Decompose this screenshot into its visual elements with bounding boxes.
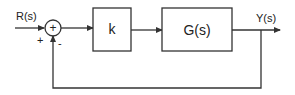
sum-symbol: + xyxy=(49,21,56,35)
plant-block: G(s) xyxy=(162,8,232,51)
output-label: Y(s) xyxy=(256,12,276,24)
input-signal: R(s) xyxy=(15,10,44,28)
block-diagram: R(s) + + - k G(s) Y(s) xyxy=(0,0,295,95)
output-signal: Y(s) xyxy=(232,12,280,30)
controller-block: k xyxy=(93,8,131,51)
controller-label: k xyxy=(109,21,117,37)
input-label: R(s) xyxy=(16,10,37,22)
minus-sign: - xyxy=(58,37,62,49)
plant-label: G(s) xyxy=(183,22,210,38)
summing-junction: + + - xyxy=(37,20,62,49)
plus-sign: + xyxy=(37,34,43,46)
